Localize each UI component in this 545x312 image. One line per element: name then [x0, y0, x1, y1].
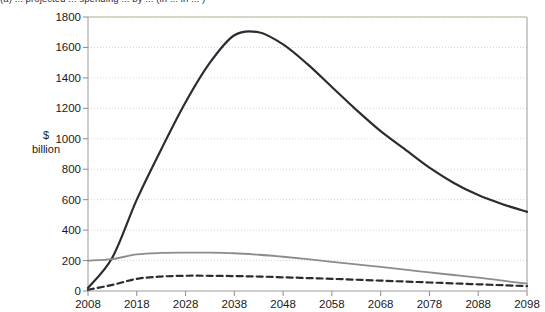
x-tick-label: 2078 — [406, 298, 452, 310]
plot-frame — [88, 17, 527, 291]
y-tick-label: 1600 — [35, 41, 81, 53]
series-primary-projection — [88, 31, 527, 288]
y-tick-label: 1000 — [35, 133, 81, 145]
x-tick-label: 2098 — [504, 298, 545, 310]
x-tick-label: 2058 — [309, 298, 355, 310]
data-series-group — [88, 31, 527, 290]
chart-svg — [0, 0, 545, 312]
y-tick-label: 1400 — [35, 72, 81, 84]
y-tick-label: 1800 — [35, 11, 81, 23]
y-tick-label: 800 — [35, 163, 81, 175]
line-chart — [0, 0, 545, 312]
x-tick-label: 2008 — [65, 298, 111, 310]
y-tick-label: 400 — [35, 224, 81, 236]
x-tick-label: 2068 — [358, 298, 404, 310]
y-tick-label: 600 — [35, 194, 81, 206]
y-tick-label: 1200 — [35, 102, 81, 114]
y-tick-label: 200 — [35, 255, 81, 267]
x-tick-label: 2038 — [211, 298, 257, 310]
series-tertiary-projection — [88, 276, 527, 290]
x-tick-label: 2088 — [455, 298, 501, 310]
gridlines — [88, 17, 527, 261]
y-tick-label: 0 — [35, 285, 81, 297]
x-tick-label: 2028 — [163, 298, 209, 310]
x-tick-label: 2048 — [260, 298, 306, 310]
x-tick-label: 2018 — [114, 298, 160, 310]
